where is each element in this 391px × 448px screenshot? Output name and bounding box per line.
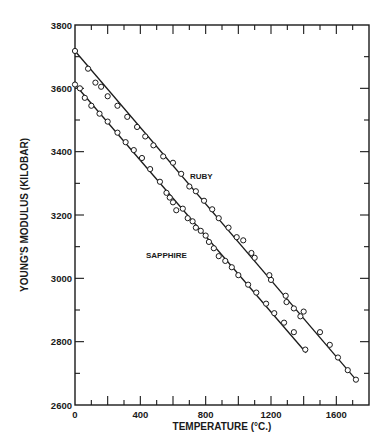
data-point bbox=[291, 306, 296, 311]
data-point bbox=[216, 216, 221, 221]
data-point bbox=[185, 216, 190, 221]
data-point bbox=[143, 134, 148, 139]
series-ruby bbox=[72, 48, 358, 382]
y-tick-label: 3400 bbox=[51, 146, 72, 157]
data-point bbox=[254, 290, 259, 295]
data-point bbox=[301, 309, 306, 314]
data-point bbox=[174, 208, 179, 213]
data-point bbox=[72, 48, 77, 53]
data-point bbox=[131, 147, 136, 152]
data-point bbox=[170, 200, 175, 205]
data-point bbox=[229, 265, 234, 270]
data-point bbox=[123, 140, 128, 145]
data-point bbox=[284, 299, 289, 304]
y-tick-label: 3000 bbox=[51, 273, 72, 284]
plot-frame bbox=[75, 25, 369, 405]
data-point bbox=[353, 377, 358, 382]
data-point bbox=[210, 207, 215, 212]
data-point bbox=[134, 124, 139, 129]
data-point bbox=[148, 166, 153, 171]
x-tick-label: 1600 bbox=[326, 409, 347, 420]
data-point bbox=[105, 94, 110, 99]
youngs-modulus-chart: 0400800120016002600280030003200340036003… bbox=[0, 0, 391, 448]
x-tick-label: 1200 bbox=[260, 409, 281, 420]
data-point bbox=[345, 368, 350, 373]
data-point bbox=[216, 254, 221, 259]
series-sapphire bbox=[72, 82, 308, 353]
data-point bbox=[93, 80, 98, 85]
x-tick-label: 400 bbox=[132, 409, 148, 420]
data-point bbox=[298, 314, 303, 319]
data-point bbox=[170, 160, 175, 165]
data-point bbox=[264, 301, 269, 306]
data-point bbox=[335, 355, 340, 360]
y-tick-label: 3800 bbox=[51, 20, 72, 31]
data-point bbox=[89, 103, 94, 108]
data-point bbox=[85, 66, 90, 71]
data-point bbox=[115, 130, 120, 135]
data-point bbox=[201, 198, 206, 203]
data-point bbox=[167, 195, 172, 200]
data-point bbox=[317, 330, 322, 335]
data-point bbox=[72, 82, 77, 87]
annotation-ruby: RUBY bbox=[190, 172, 213, 181]
y-tick-label: 2800 bbox=[51, 336, 72, 347]
data-point bbox=[249, 250, 254, 255]
data-point bbox=[303, 347, 308, 352]
data-point bbox=[105, 119, 110, 124]
data-point bbox=[161, 154, 166, 159]
data-point bbox=[291, 330, 296, 335]
axis-ticks bbox=[75, 25, 369, 405]
data-series bbox=[72, 48, 358, 382]
data-point bbox=[180, 206, 185, 211]
data-point bbox=[193, 225, 198, 230]
plot-border bbox=[75, 25, 369, 405]
x-tick-label: 0 bbox=[72, 409, 77, 420]
data-point bbox=[206, 239, 211, 244]
data-point bbox=[246, 282, 251, 287]
data-point bbox=[157, 179, 162, 184]
data-point bbox=[327, 342, 332, 347]
data-point bbox=[77, 86, 82, 91]
data-point bbox=[179, 171, 184, 176]
data-point bbox=[234, 235, 239, 240]
x-axis-label: TEMPERATURE (°C.) bbox=[173, 421, 272, 432]
data-point bbox=[82, 95, 87, 100]
fit-line bbox=[75, 51, 356, 380]
data-point bbox=[99, 84, 104, 89]
data-point bbox=[125, 114, 130, 119]
data-point bbox=[241, 238, 246, 243]
data-point bbox=[226, 225, 231, 230]
data-point bbox=[211, 246, 216, 251]
data-point bbox=[223, 258, 228, 263]
annotation-sapphire: SAPPHIRE bbox=[146, 251, 188, 260]
data-point bbox=[283, 293, 288, 298]
data-point bbox=[203, 233, 208, 238]
data-point bbox=[97, 111, 102, 116]
data-point bbox=[190, 219, 195, 224]
data-point bbox=[198, 228, 203, 233]
data-point bbox=[272, 311, 277, 316]
y-axis-label: YOUNG'S MODULUS (KILOBAR) bbox=[19, 138, 30, 292]
data-point bbox=[281, 320, 286, 325]
data-point bbox=[252, 255, 257, 260]
data-point bbox=[236, 273, 241, 278]
data-point bbox=[139, 155, 144, 160]
y-tick-label: 3200 bbox=[51, 210, 72, 221]
x-tick-label: 800 bbox=[198, 409, 214, 420]
data-point bbox=[187, 184, 192, 189]
data-point bbox=[164, 190, 169, 195]
y-tick-label: 2600 bbox=[51, 400, 72, 411]
data-point bbox=[193, 189, 198, 194]
data-point bbox=[115, 103, 120, 108]
data-point bbox=[268, 277, 273, 282]
y-tick-label: 3600 bbox=[51, 83, 72, 94]
data-point bbox=[151, 143, 156, 148]
